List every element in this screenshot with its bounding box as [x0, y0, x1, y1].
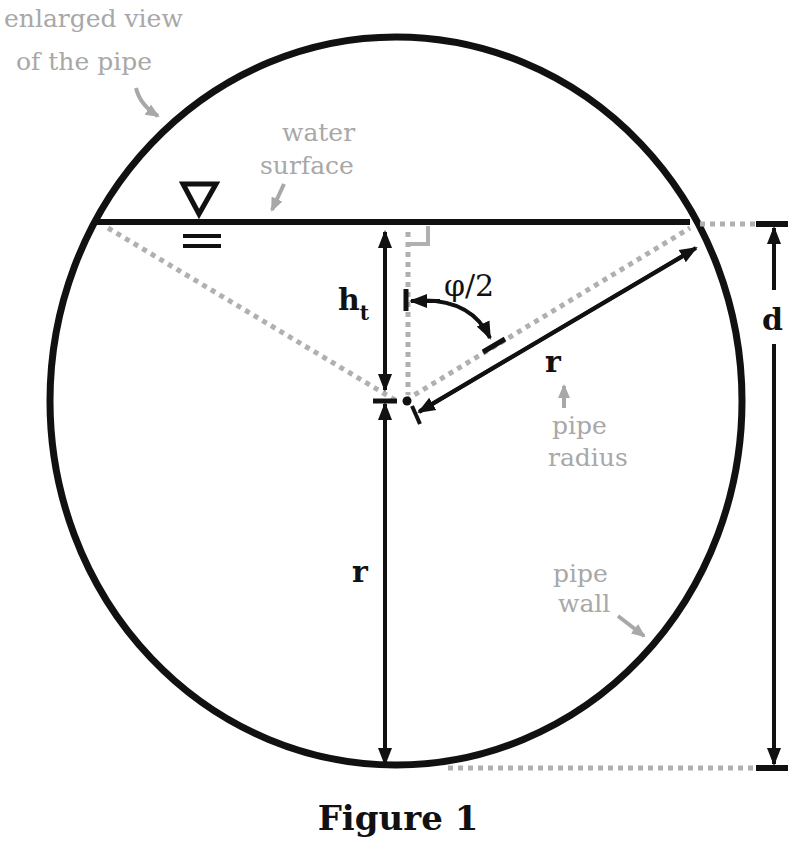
- lower-radius-symbol: r: [352, 554, 369, 589]
- upper-radius-symbol: r: [545, 344, 562, 379]
- ht-dimension: [373, 232, 397, 401]
- half-angle-symbol: φ/2: [444, 268, 494, 303]
- water-surface-label: water: [282, 118, 355, 147]
- annotation-arrows: [136, 88, 644, 636]
- pipe-radius-label-2: radius: [548, 443, 628, 472]
- right-angle-icon: [408, 226, 428, 244]
- water-level-icon: [183, 184, 221, 246]
- pipe-radius-label: pipe: [552, 411, 607, 440]
- dotted-chord-lines: [108, 224, 760, 768]
- enlarged-view-label-2: of the pipe: [16, 47, 152, 76]
- center-point: [403, 397, 412, 406]
- pipe-wall-label-2: wall: [558, 589, 610, 618]
- figure-caption: Figure 1: [318, 798, 479, 838]
- pipe-diagram: enlarged view of the pipe water surface …: [0, 0, 796, 844]
- enlarged-view-label: enlarged view: [4, 4, 183, 33]
- pipe-wall-label: pipe: [553, 559, 608, 588]
- water-surface-label-2: surface: [260, 151, 354, 180]
- diameter-symbol: d: [762, 302, 783, 337]
- ht-symbol: ht: [338, 282, 370, 325]
